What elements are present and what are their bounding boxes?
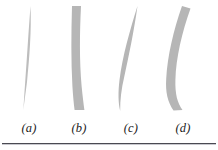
shapes-band <box>0 0 218 118</box>
figure-label-b: (b) <box>52 118 106 138</box>
shape-panel-b <box>52 0 106 118</box>
bottom-divider-shadow <box>2 144 216 145</box>
crescent-pointed-ends-icon <box>104 0 158 118</box>
shape-panel-a <box>2 0 56 118</box>
figure-container: (a) (b) (c) (d) <box>0 0 218 150</box>
figure-label-a: (a) <box>2 118 56 138</box>
labels-band: (a) (b) (c) (d) <box>0 118 218 140</box>
figure-label-d: (d) <box>156 118 210 138</box>
figure-label-c: (c) <box>104 118 158 138</box>
shape-panel-c <box>104 0 158 118</box>
thin-pointed-sliver-icon <box>2 0 56 118</box>
shape-panel-d <box>156 0 210 118</box>
thick-arc-cut-ends-icon <box>156 0 210 118</box>
straight-bar-flat-ends-icon <box>52 0 106 118</box>
